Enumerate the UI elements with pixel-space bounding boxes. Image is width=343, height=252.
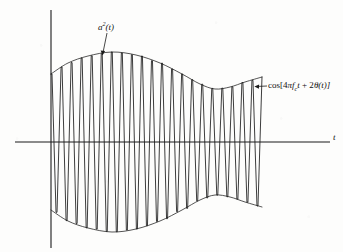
carrier-label: cos[4πfct + 2θ(t)] — [268, 81, 330, 92]
envelope-label: a2(t) — [98, 21, 114, 32]
x-axis-label: t — [333, 133, 336, 142]
axes-group — [15, 10, 330, 248]
figure-container: a2(t) cos[4πfct + 2θ(t)] t — [0, 0, 343, 252]
waveform-plot — [0, 0, 343, 252]
carrier-label-arg: (t)] — [318, 80, 330, 90]
envelope-label-leader — [101, 33, 107, 55]
carrier-label-leader — [254, 85, 267, 89]
x-axis-label-text: t — [333, 132, 336, 142]
envelope-label-arg: (t) — [106, 22, 115, 32]
carrier-label-plus: + 2 — [300, 80, 314, 90]
carrier-label-fn: cos[4 — [268, 80, 288, 90]
